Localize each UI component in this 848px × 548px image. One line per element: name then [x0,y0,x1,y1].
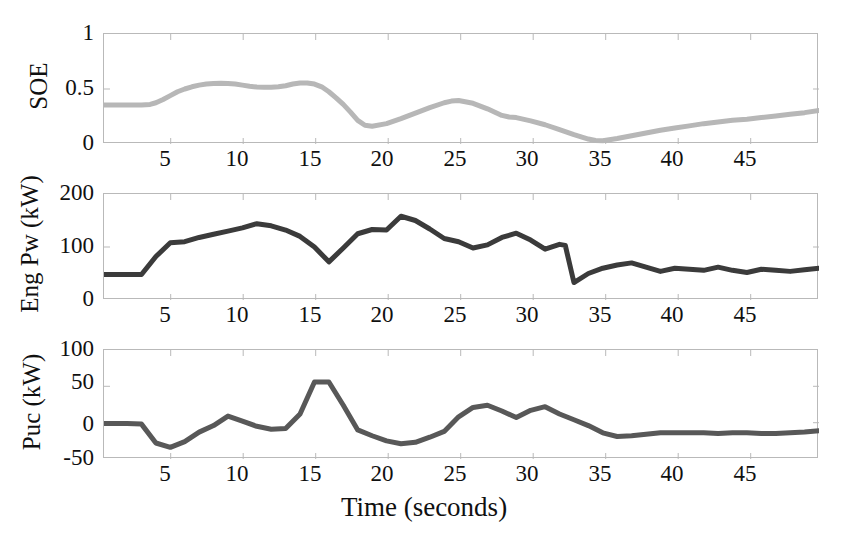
soe-xtick-20: 20 [362,146,402,172]
engpw-plot-area [103,193,818,299]
puc-xtick-35: 35 [580,461,620,487]
engpw-xtick-10: 10 [217,302,257,328]
puc-xtick-30: 30 [507,461,547,487]
engpw-tick-marks [104,194,819,300]
soe-xtick-30: 30 [507,146,547,172]
soe-xtick-15: 15 [290,146,330,172]
soe-curve [104,83,819,141]
soe-xtick-40: 40 [652,146,692,172]
soe-ytick-0: 0 [48,130,94,156]
soe-ytick-0_5: 0.5 [38,75,94,101]
engpw-curve [104,216,819,282]
puc-xtick-40: 40 [652,461,692,487]
puc-xtick-5: 5 [145,461,185,487]
puc-xtick-45: 45 [725,461,765,487]
puc-xtick-10: 10 [217,461,257,487]
engpw-plot-svg [104,194,819,300]
puc-plot-area [103,349,818,458]
engpw-xtick-35: 35 [580,302,620,328]
puc-ytick-50: 50 [24,369,94,395]
engpw-xtick-20: 20 [362,302,402,328]
puc-ytick-0: 0 [24,411,94,437]
puc-xtick-20: 20 [362,461,402,487]
engpw-ytick-200: 200 [30,180,94,206]
soe-xtick-10: 10 [217,146,257,172]
panel-engpw: Eng Pw (kW) 200 100 0 [0,175,848,340]
puc-tick-marks [104,350,819,459]
engpw-xtick-5: 5 [145,302,185,328]
soe-xtick-25: 25 [435,146,475,172]
soe-xtick-45: 45 [725,146,765,172]
engpw-xtick-30: 30 [507,302,547,328]
panel-soe: SOE 1 0.5 0 [0,0,848,175]
puc-plot-svg [104,350,819,459]
engpw-xtick-25: 25 [435,302,475,328]
puc-xtick-15: 15 [290,461,330,487]
puc-ytick-100: 100 [24,336,94,362]
soe-plot-area [103,33,818,143]
soe-plot-svg [104,34,819,144]
panel-puc: Puc (kW) 100 50 0 -50 [0,340,848,548]
engpw-ytick-100: 100 [30,233,94,259]
soe-ytick-1: 1 [48,20,94,46]
soe-xtick-35: 35 [580,146,620,172]
puc-xtick-25: 25 [435,461,475,487]
soe-xtick-5: 5 [145,146,185,172]
engpw-xtick-45: 45 [725,302,765,328]
soe-tick-marks [104,34,819,144]
puc-ytick-minus50: -50 [24,445,94,471]
time-axis-label: Time (seconds) [0,492,848,523]
engpw-xtick-15: 15 [290,302,330,328]
figure-root: SOE 1 0.5 0 [0,0,848,548]
engpw-xtick-40: 40 [652,302,692,328]
puc-curve [104,382,819,447]
engpw-ytick-0: 0 [30,286,94,312]
